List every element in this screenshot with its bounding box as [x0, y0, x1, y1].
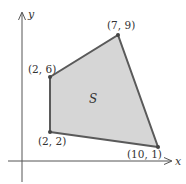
x-axis-label: x — [175, 155, 182, 168]
vertex-label-2-6: (2, 6) — [28, 63, 56, 75]
vertex-label-10-1: (10, 1) — [127, 148, 162, 160]
region-s — [50, 35, 158, 147]
vertex-7-9 — [116, 33, 120, 37]
y-axis-label: y — [27, 8, 35, 21]
vertex-label-7-9: (7, 9) — [107, 19, 135, 31]
vertex-2-6 — [48, 75, 52, 79]
vertex-label-2-2: (2, 2) — [38, 135, 66, 147]
vertex-2-2 — [48, 130, 52, 134]
region-label: S — [89, 92, 97, 106]
coordinate-diagram: y x S (2, 6) (7, 9) (2, 2) (10, 1) — [0, 0, 186, 184]
